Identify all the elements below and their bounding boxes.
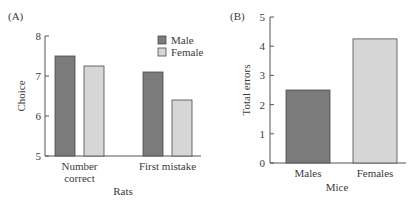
panel-a-x-tick-label: correct	[64, 172, 95, 184]
panel-a-bar-female	[84, 66, 104, 156]
panel-b-y-tick-label: 2	[260, 99, 266, 111]
panel-a-y-axis-title: Choice	[15, 80, 27, 111]
panel-b-y-tick-label: 0	[260, 157, 266, 169]
panel-a-bar-male	[55, 56, 75, 156]
panel-a-x-tick-label: First mistake	[139, 160, 196, 172]
panel-a-y-tick-label: 5	[36, 150, 42, 162]
panel-b-y-axis-title: Total errors	[240, 65, 252, 116]
figure: (A)5678ChoiceNumbercorrectFirst mistakeR…	[0, 0, 415, 202]
panel-b-y-tick-label: 4	[260, 40, 266, 52]
legend-swatch-male	[158, 36, 166, 44]
panel-b-x-tick-label: Females	[357, 167, 394, 179]
legend-label-male: Male	[171, 34, 194, 46]
panel-a-y-tick-label: 7	[36, 70, 42, 82]
panel-b-y-tick-label: 5	[260, 11, 266, 23]
panel-b-y-tick-label: 1	[260, 128, 266, 140]
panel-a-bar-male	[143, 72, 163, 156]
panel-b-bar-males	[286, 90, 330, 163]
panel-a-x-tick-label: Number	[61, 160, 97, 172]
panel-a-y-tick-label: 8	[36, 30, 42, 42]
panel-a-y-tick-label: 6	[36, 110, 42, 122]
panel-a-bar-female	[172, 100, 192, 156]
panel-b-label: (B)	[230, 10, 245, 23]
legend-label-female: Female	[171, 46, 203, 58]
panel-a-label: (A)	[8, 10, 24, 23]
legend-swatch-female	[158, 48, 166, 56]
panel-b-x-tick-label: Males	[295, 167, 322, 179]
panel-b-y-tick-label: 3	[260, 69, 266, 81]
panel-a-x-axis-title: Rats	[113, 185, 133, 197]
panel-b-x-axis-title: Mice	[326, 181, 349, 193]
panel-b-bar-females	[353, 39, 397, 163]
